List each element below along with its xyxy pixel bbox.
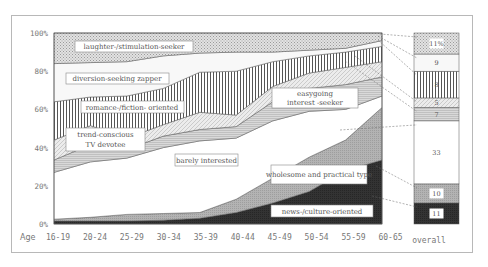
stacked-area-chart: 111033758911% 0%20%40%60%80%100% Age ove… <box>0 0 488 267</box>
annotation-text: easygoing <box>297 90 333 98</box>
annotation-text: romance-/fiction- oriented <box>86 104 179 112</box>
leader-line-laughter <box>380 34 417 37</box>
x-tick-label: 40-44 <box>231 233 255 242</box>
y-tick-label: 20% <box>34 182 48 191</box>
x-tick-label: 50-54 <box>305 233 329 242</box>
overall-value-label: 10 <box>432 190 440 198</box>
annotation-romance: romance-/fiction- oriented <box>81 101 184 113</box>
overall-value-label: 11 <box>432 210 440 218</box>
x-axis-label: Age <box>20 233 36 242</box>
x-tick-label: 35-39 <box>194 233 218 242</box>
annotation-text: barely interested <box>176 157 237 165</box>
y-tick-label: 40% <box>34 144 48 153</box>
y-axis: 0%20%40%60%80%100% <box>30 29 49 229</box>
x-axis: Age overall 16-1920-2425-2930-3435-3940-… <box>20 233 446 245</box>
x-tick-label: 45-49 <box>268 233 292 242</box>
leader-line-diversion <box>378 36 417 58</box>
annotation-trend: trend-conscious TV devotee <box>66 128 145 151</box>
overall-value-label: 8 <box>434 81 438 89</box>
annotation-barely: barely interested <box>175 154 238 166</box>
x-tick-label: 60-65 <box>378 233 402 242</box>
x-tick-label: 25-29 <box>120 233 144 242</box>
overall-bar: 111033758911% <box>414 33 459 224</box>
leader-line-romance <box>378 40 417 75</box>
x-tick-label: 20-24 <box>83 233 107 242</box>
overall-value-label: 5 <box>434 99 438 107</box>
annotation-text: wholesome and practical type <box>266 171 372 179</box>
annotation-wholesome: wholesome and practical type <box>266 165 372 184</box>
annotation-news: news-/culture-oriented <box>271 205 373 217</box>
y-tick-label: 0% <box>39 220 49 229</box>
overall-label: overall <box>412 236 446 245</box>
x-tick-label: 16-19 <box>46 233 70 242</box>
annotation-text: laughter-/stimulation-seeker <box>84 43 186 51</box>
overall-value-label: 33 <box>432 149 440 157</box>
annotation-text: interest -seeker <box>287 99 343 107</box>
overall-value-label: 9 <box>434 59 438 67</box>
annotation-text: TV devotee <box>86 141 126 149</box>
annotation-diversion: diversion-seeking zapper <box>66 73 169 84</box>
x-tick-label: 30-34 <box>157 233 181 242</box>
overall-value-label: 7 <box>434 111 438 119</box>
y-tick-label: 60% <box>34 105 48 114</box>
annotation-text: news-/culture-oriented <box>282 208 363 216</box>
y-tick-label: 80% <box>34 67 48 76</box>
x-tick-label: 55-59 <box>342 233 366 242</box>
annotation-laughter: laughter-/stimulation-seeker <box>75 41 193 52</box>
overall-value-label: 11% <box>429 40 443 48</box>
annotation-text: diversion-seeking zapper <box>73 75 163 83</box>
annotation-text: trend-conscious <box>77 131 134 139</box>
y-tick-label: 100% <box>30 29 49 38</box>
annotation-easygoing: easygoing interest -seeker <box>272 88 358 108</box>
